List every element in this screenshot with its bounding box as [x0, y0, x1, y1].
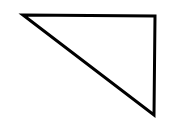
diagram-canvas — [0, 0, 170, 123]
triangle-diagram — [0, 0, 170, 123]
right-triangle-shape — [23, 15, 155, 115]
